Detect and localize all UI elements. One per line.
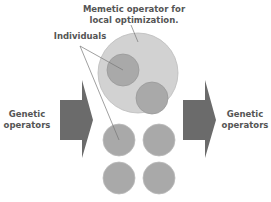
individual-circle-2 <box>143 124 175 156</box>
individual-circle-3 <box>103 162 135 194</box>
individual-circle-4 <box>143 162 175 194</box>
left-genetic-operators-label: Genetic operators <box>2 109 52 131</box>
diagram-canvas <box>0 0 271 202</box>
left-arrow-icon <box>60 80 93 158</box>
individual-circle-inner-2 <box>136 82 168 114</box>
right-arrow-icon <box>183 80 216 158</box>
individuals-label: Individuals <box>50 31 110 42</box>
right-genetic-operators-label: Genetic operators <box>220 109 270 131</box>
memetic-operator-label: Memetic operator for local optimization. <box>78 4 190 26</box>
